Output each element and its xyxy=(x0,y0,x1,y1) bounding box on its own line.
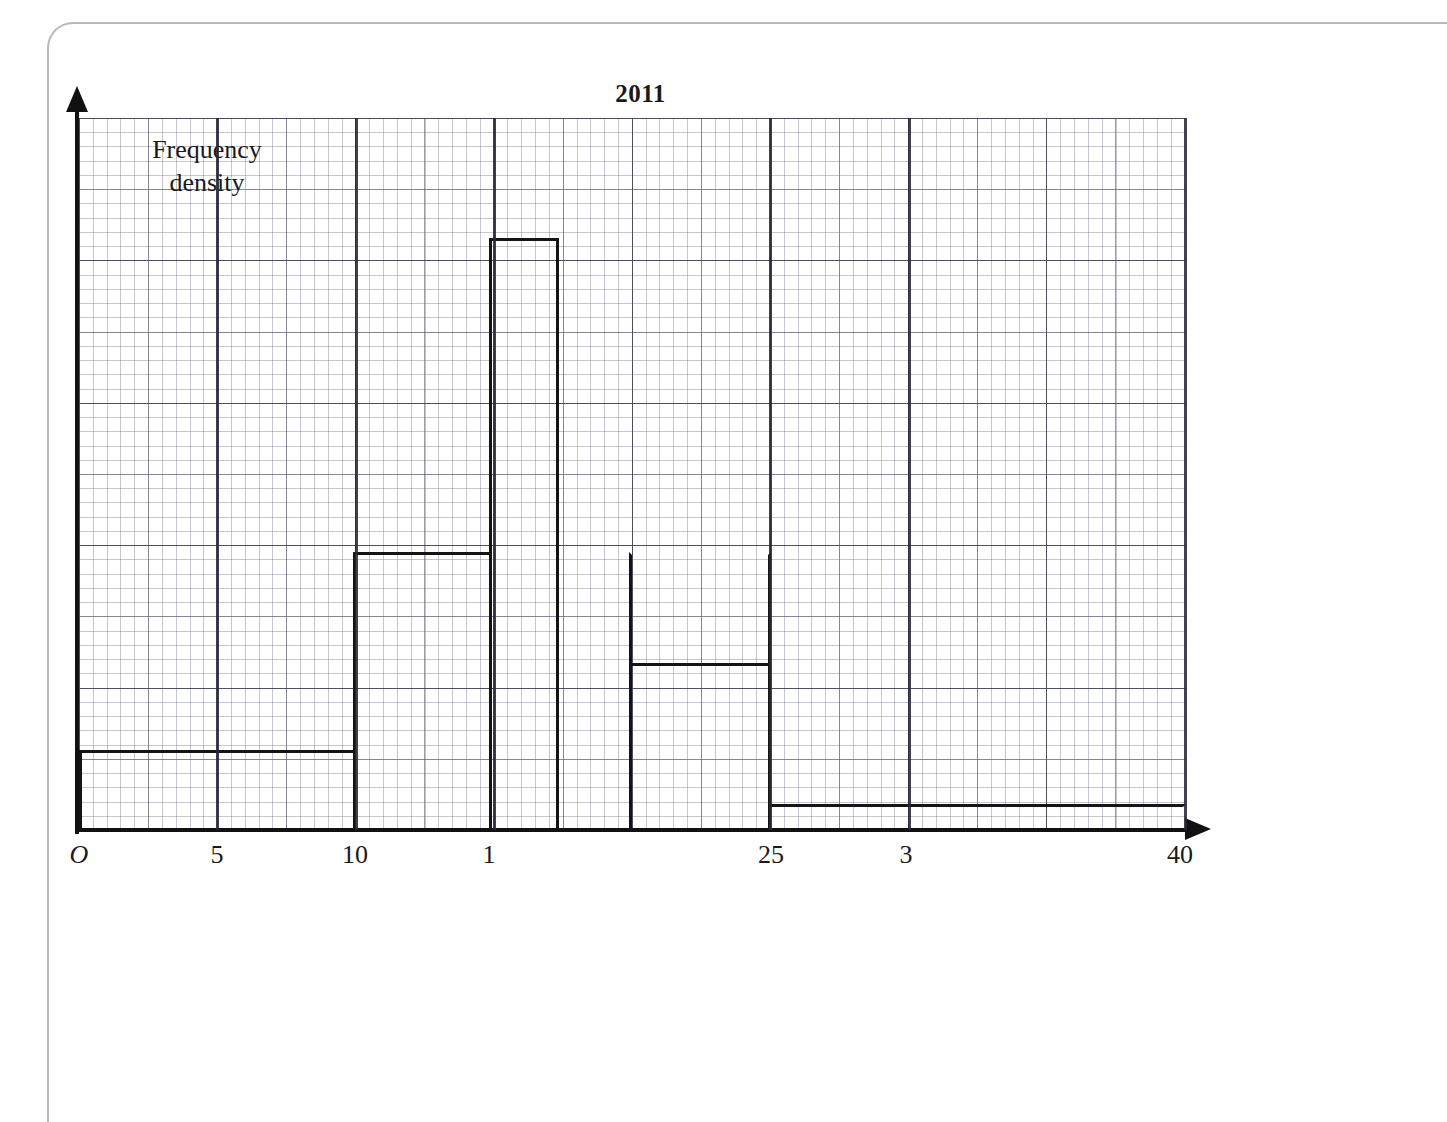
x-tick-mark-40 xyxy=(1184,118,1187,830)
x-tick-mark-25 xyxy=(769,118,772,830)
histogram-bar-20-25-top xyxy=(629,663,771,830)
x-tick-mark-5 xyxy=(216,118,219,830)
histogram-bar-10-15 xyxy=(353,552,492,830)
histogram-bar-15-17 xyxy=(489,238,559,830)
x-tick-mark-15 xyxy=(493,118,496,830)
x-tick-mark-30 xyxy=(908,118,911,830)
x-tick-mark-10 xyxy=(355,118,358,830)
histogram-bar-25-40 xyxy=(768,804,1186,830)
